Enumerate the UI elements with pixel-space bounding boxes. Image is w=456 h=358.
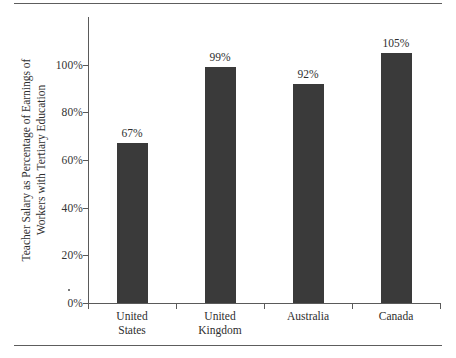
y-axis-title: Teacher Salary as Percentage of Earnings… [14,17,54,303]
y-axis-line [88,17,89,304]
stray-speck [68,289,70,291]
top-divider-rule [14,3,442,4]
bar-value-label: 67% [121,127,142,139]
figure: Teacher Salary as Percentage of Earnings… [0,0,456,358]
x-tick-mark [440,303,441,309]
y-axis-title-line-1: Teacher Salary as Percentage of Earnings… [19,59,34,262]
y-tick-mark [83,65,88,66]
y-tick-mark [83,112,88,113]
bar[interactable]: 92% [293,84,324,303]
x-category-label-line: United [88,309,176,323]
x-category-label-line: Australia [264,309,352,323]
bar-value-label: 99% [209,51,230,63]
bar[interactable]: 105% [381,53,412,303]
x-category-label: UnitedStates [88,309,176,337]
y-tick-label: 20% [62,249,83,261]
x-category-label-line: States [88,323,176,337]
plot-area: 0%20%40%60%80%100%67%UnitedStates99%Unit… [88,17,440,303]
y-tick-label: 80% [62,106,83,118]
x-category-label: UnitedKingdom [176,309,264,337]
y-tick-mark [83,160,88,161]
bottom-divider-rule [14,345,442,346]
x-category-label-line: Kingdom [176,323,264,337]
bar[interactable]: 99% [205,67,236,303]
y-tick-label: 60% [62,154,83,166]
x-category-label-line: Canada [352,309,440,323]
y-axis-title-line-2: Workers with Tertiary Education [34,59,49,262]
bar[interactable]: 67% [117,143,148,303]
y-tick-label: 40% [62,202,83,214]
y-tick-mark [83,208,88,209]
x-category-label: Canada [352,309,440,323]
x-category-label: Australia [264,309,352,323]
bar-value-label: 92% [297,68,318,80]
x-category-label-line: United [176,309,264,323]
bar-value-label: 105% [383,37,410,49]
y-tick-label: 0% [67,297,83,309]
y-tick-label: 100% [56,59,83,71]
y-tick-mark [83,255,88,256]
